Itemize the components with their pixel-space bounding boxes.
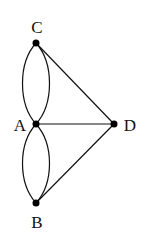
edge-b-d — [36, 124, 114, 203]
edge-c-d — [36, 43, 114, 124]
node-d — [111, 121, 118, 128]
label-c: C — [31, 18, 42, 37]
node-b — [33, 200, 40, 207]
node-a — [33, 121, 40, 128]
node-c — [33, 40, 40, 47]
nodes — [33, 40, 118, 207]
labels: C A D B — [14, 18, 136, 232]
label-a: A — [14, 116, 27, 135]
edge-a-c-left — [23, 43, 37, 124]
edge-a-b-left — [23, 124, 37, 203]
label-b: B — [31, 213, 42, 232]
label-d: D — [124, 116, 136, 135]
graph-diagram: C A D B — [0, 0, 145, 240]
